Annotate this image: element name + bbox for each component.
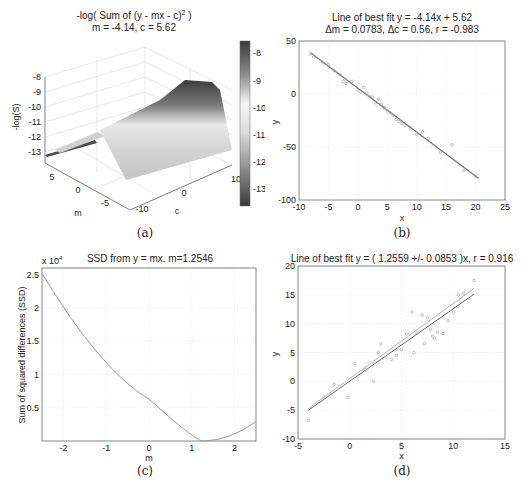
colorbar <box>240 41 250 206</box>
z-tick-labels: -8 -9 -10 -11 -12 -13 <box>28 72 41 157</box>
m-tick-labels: 5 0 -5 <box>49 172 109 208</box>
svg-text:0.5: 0.5 <box>26 403 39 413</box>
y-tick-labels-b: 50 0 -50 -100 <box>278 36 296 205</box>
svg-text:-10: -10 <box>28 102 41 112</box>
x-tick-labels-d: -5 0 5 10 15 <box>294 441 510 451</box>
svg-text:5: 5 <box>290 348 295 358</box>
svg-text:-2: -2 <box>59 443 67 453</box>
svg-text:1: 1 <box>189 443 194 453</box>
x-tick-labels-b: -10 -5 0 5 10 15 20 25 <box>292 202 510 212</box>
ylabel-b: y <box>270 119 280 124</box>
grid-c <box>42 268 256 441</box>
zlabel-a: -log(S) <box>11 103 21 130</box>
grid-d <box>298 266 505 439</box>
ylabel-a: c <box>175 206 180 216</box>
surface-left-fold <box>55 132 105 153</box>
svg-text:-9: -9 <box>33 87 41 97</box>
data-points-d <box>307 279 475 422</box>
svg-text:0: 0 <box>347 441 352 451</box>
svg-text:-1: -1 <box>102 443 110 453</box>
svg-text:-10: -10 <box>292 202 305 212</box>
svg-text:-9: -9 <box>253 76 261 86</box>
title-a-line2: m = -4.14, c = 5.62 <box>92 22 176 33</box>
svg-text:20: 20 <box>471 202 481 212</box>
x-tick-labels-c: -2 -1 0 1 2 <box>59 443 237 453</box>
svg-text:5: 5 <box>399 441 404 451</box>
fit-upper-line-d <box>308 289 474 409</box>
svg-text:5: 5 <box>385 202 390 212</box>
line-plot-c: SSD from y = mx. m=1.2546 x 104 2.5 2 1.… <box>0 245 265 492</box>
exponent-c: x 104 <box>42 255 63 266</box>
svg-text:10: 10 <box>231 174 241 184</box>
svg-text:1: 1 <box>34 370 39 380</box>
svg-text:15: 15 <box>441 202 451 212</box>
xlabel-c: m <box>145 453 153 463</box>
svg-text:-10: -10 <box>253 103 265 113</box>
svg-text:0: 0 <box>355 202 360 212</box>
xlabel-d: x <box>399 451 404 461</box>
svg-text:2: 2 <box>232 443 237 453</box>
title-a-line1: -log( Sum of (y - mx - c)2 ) <box>76 9 191 21</box>
svg-text:-8: -8 <box>253 48 261 58</box>
xlabel-b: x <box>400 213 405 223</box>
surface-main <box>100 80 232 180</box>
y-tick-labels-c: 2.5 2 1.5 1 0.5 <box>26 270 39 413</box>
svg-text:5: 5 <box>49 172 54 182</box>
title-b-line1: Line of best fit y = -4.14x + 5.62 <box>332 12 473 23</box>
fit-line-d <box>308 294 474 410</box>
svg-text:0: 0 <box>290 376 295 386</box>
title-d: Line of best fit y = ( 1.2559 +/- 0.0853… <box>291 253 514 264</box>
svg-text:-12: -12 <box>253 157 265 167</box>
svg-text:10: 10 <box>448 441 458 451</box>
svg-text:-50: -50 <box>283 142 296 152</box>
caption-d: (d) <box>393 464 410 478</box>
ylabel-c: Sum of squared differences (SSD) <box>17 287 27 424</box>
caption-a: (a) <box>137 226 154 240</box>
svg-text:0: 0 <box>181 188 186 198</box>
svg-text:10: 10 <box>412 202 422 212</box>
svg-text:-13: -13 <box>28 147 41 157</box>
svg-text:2: 2 <box>34 303 39 313</box>
svg-text:-5: -5 <box>324 202 332 212</box>
svg-text:-8: -8 <box>33 72 41 82</box>
svg-text:-10: -10 <box>135 204 148 214</box>
c-tick-labels: -10 0 10 <box>135 174 241 214</box>
svg-text:10: 10 <box>285 319 295 329</box>
svg-text:-11: -11 <box>29 117 41 127</box>
surface-plot-a: -log( Sum of (y - mx - c)2 ) m = -4.14, … <box>0 0 265 245</box>
y-tick-labels-d: 20 15 10 5 0 -5 -10 <box>282 261 295 444</box>
title-b-line2: Δm = 0.0783, Δc = 0.56, r = -0.983 <box>325 24 479 35</box>
colorbar-ticks: -8 -9 -10 -11 -12 -13 <box>253 48 265 194</box>
xlabel-a: m <box>74 208 82 218</box>
svg-text:2.5: 2.5 <box>26 270 39 280</box>
svg-text:20: 20 <box>285 261 295 271</box>
svg-text:25: 25 <box>500 202 510 212</box>
svg-text:0: 0 <box>146 443 151 453</box>
caption-b: (b) <box>393 226 410 240</box>
svg-text:0: 0 <box>291 89 296 99</box>
svg-text:1.5: 1.5 <box>26 336 39 346</box>
scatter-plot-d: Line of best fit y = ( 1.2559 +/- 0.0853… <box>265 245 527 492</box>
svg-text:50: 50 <box>286 36 296 46</box>
svg-text:-5: -5 <box>101 198 109 208</box>
svg-text:15: 15 <box>285 290 295 300</box>
svg-text:-5: -5 <box>294 441 302 451</box>
svg-text:-12: -12 <box>28 132 41 142</box>
svg-text:0: 0 <box>75 185 80 195</box>
svg-text:15: 15 <box>500 441 510 451</box>
svg-text:-11: -11 <box>253 130 265 140</box>
caption-c: (c) <box>137 464 153 478</box>
title-c: SSD from y = mx. m=1.2546 <box>87 253 214 264</box>
svg-text:-13: -13 <box>253 184 265 194</box>
ylabel-d: y <box>270 351 280 356</box>
svg-text:-5: -5 <box>287 405 295 415</box>
scatter-plot-b: Line of best fit y = -4.14x + 5.62 Δm = … <box>265 0 527 245</box>
